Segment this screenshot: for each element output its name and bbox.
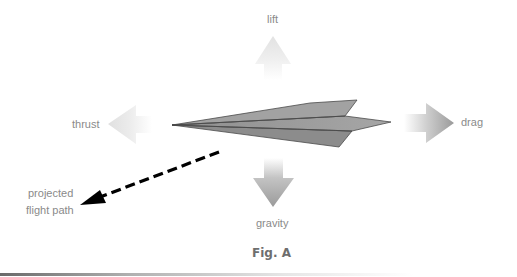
force-diagram: lift thrust drag gravity projected fligh… (0, 0, 517, 277)
thrust-label: thrust (72, 118, 100, 131)
bottom-divider (0, 273, 517, 276)
gravity-arrow (253, 158, 294, 207)
gravity-label: gravity (256, 217, 288, 230)
lift-arrow (255, 36, 291, 80)
projected-path-label-line2: flight path (26, 204, 74, 217)
diagram-canvas (0, 0, 517, 277)
drag-label: drag (461, 116, 483, 129)
figure-caption: Fig. A (252, 246, 291, 260)
projected-path-label-line1: projected (28, 187, 73, 200)
projected-flight-path-arrow (80, 152, 219, 205)
paper-airplane (172, 100, 391, 147)
thrust-arrow (108, 105, 152, 144)
drag-arrow (404, 103, 454, 143)
lift-label: lift (267, 13, 278, 26)
